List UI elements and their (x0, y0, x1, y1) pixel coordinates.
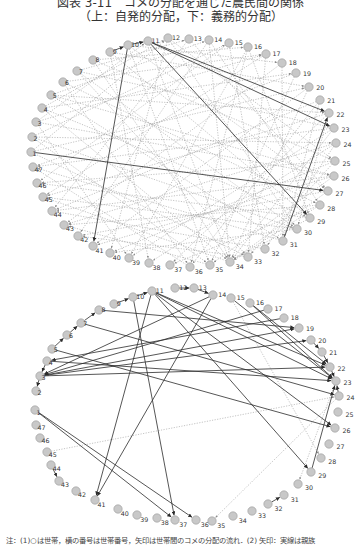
household-circle-icon (330, 124, 338, 132)
household-node-45: 45 (43, 448, 57, 459)
household-number-label: 23 (343, 379, 351, 386)
household-number-label: 16 (256, 299, 264, 306)
household-circle-icon (331, 157, 339, 165)
dotted-edge-12-40 (111, 42, 167, 248)
household-circle-icon (261, 245, 269, 253)
obligatory-distribution-network: 1234567891011121314151617181920212223242… (31, 284, 355, 530)
household-number-label: 9 (113, 48, 117, 55)
household-node-24: 24 (332, 139, 352, 149)
dotted-edge-26-44 (57, 177, 330, 211)
household-circle-icon (325, 109, 333, 117)
household-node-36: 36 (192, 516, 209, 529)
household-node-38: 38 (153, 514, 169, 527)
household-number-label: 31 (291, 496, 299, 503)
household-node-37: 37 (171, 516, 187, 529)
household-number-label: 25 (342, 160, 350, 167)
household-number-label: 44 (53, 465, 61, 472)
dotted-edge-19-35 (212, 77, 294, 261)
household-circle-icon (324, 187, 332, 195)
household-node-23: 23 (330, 124, 350, 133)
household-number-label: 30 (304, 229, 312, 236)
household-node-45: 45 (39, 193, 53, 204)
household-node-19: 19 (292, 69, 311, 77)
solid-edge-11-26 (155, 294, 331, 426)
household-node-9: 9 (106, 48, 117, 56)
household-circle-icon (244, 253, 252, 261)
household-number-label: 4 (44, 106, 48, 113)
household-node-32: 32 (261, 245, 280, 257)
household-node-34: 34 (229, 512, 247, 524)
household-circle-icon (278, 59, 286, 67)
household-node-3: 3 (36, 372, 46, 381)
solid-edge-1-27 (35, 153, 323, 191)
household-number-label: 17 (274, 305, 282, 312)
household-number-label: 16 (254, 43, 262, 50)
household-circle-icon (244, 43, 252, 51)
household-number-label: 30 (305, 484, 313, 491)
household-circle-icon (229, 512, 237, 520)
household-number-label: 5 (53, 92, 57, 99)
household-node-6: 6 (59, 78, 69, 86)
household-number-label: 41 (95, 247, 103, 254)
household-circle-icon (225, 39, 233, 47)
dotted-edge-26-41 (98, 177, 330, 245)
household-number-label: 46 (39, 182, 47, 189)
household-node-14: 14 (205, 36, 222, 45)
household-node-21: 21 (316, 96, 336, 105)
household-number-label: 39 (140, 516, 148, 523)
solid-edge-24-23 (337, 386, 338, 392)
dotted-edge-9-29 (113, 55, 306, 215)
dotted-edge-25-46 (42, 161, 331, 182)
household-node-9: 9 (110, 300, 121, 308)
household-node-5: 5 (47, 91, 57, 100)
household-node-35: 35 (206, 261, 223, 274)
household-number-label: 8 (95, 56, 99, 63)
household-number-label: 26 (341, 175, 349, 182)
household-node-44: 44 (48, 207, 62, 218)
household-node-17: 17 (264, 305, 283, 313)
household-circle-icon (293, 225, 301, 233)
household-circle-icon (227, 294, 235, 302)
household-circle-icon (331, 424, 339, 432)
solid-edge-11-22 (152, 43, 325, 112)
household-number-label: 28 (327, 205, 335, 212)
household-number-label: 20 (316, 84, 324, 91)
household-node-44: 44 (47, 461, 61, 472)
household-number-label: 34 (236, 263, 244, 270)
household-number-label: 17 (272, 50, 280, 57)
household-circle-icon (190, 284, 198, 292)
dotted-edge-5-26 (55, 96, 329, 175)
household-node-20: 20 (305, 83, 324, 91)
household-node-47: 47 (29, 163, 43, 173)
household-number-label: 28 (328, 458, 336, 465)
household-number-label: 33 (254, 258, 262, 265)
household-node-38: 38 (145, 259, 161, 272)
solid-edge-5-6 (55, 338, 63, 346)
household-number-label: 39 (132, 259, 140, 266)
household-node-28: 28 (316, 201, 336, 212)
household-node-46: 46 (33, 179, 47, 189)
household-number-label: 7 (79, 68, 83, 75)
household-number-label: 21 (329, 349, 337, 356)
voluntary-distribution-network: 1234567891011121314151617181920212223242… (27, 34, 352, 276)
household-circle-icon (318, 348, 326, 356)
household-number-label: 37 (179, 521, 187, 528)
solid-edge-21-22 (324, 356, 328, 363)
household-number-label: 43 (66, 225, 74, 232)
dotted-edge-12-25 (171, 40, 331, 158)
household-circle-icon (166, 261, 174, 269)
solid-edge-4-23 (51, 361, 331, 380)
household-number-label: 40 (113, 254, 121, 261)
household-circle-icon (316, 201, 324, 209)
household-circle-icon (248, 507, 256, 515)
household-number-label: 24 (346, 394, 354, 401)
household-node-40: 40 (114, 505, 129, 517)
solid-edge-8-19 (103, 310, 294, 327)
household-node-2: 2 (28, 133, 38, 142)
household-node-18: 18 (278, 59, 297, 67)
household-node-33: 33 (248, 507, 266, 519)
household-number-label: 15 (235, 39, 243, 46)
household-circle-icon (332, 139, 340, 147)
household-circle-icon (292, 69, 300, 77)
household-number-label: 6 (65, 79, 69, 86)
